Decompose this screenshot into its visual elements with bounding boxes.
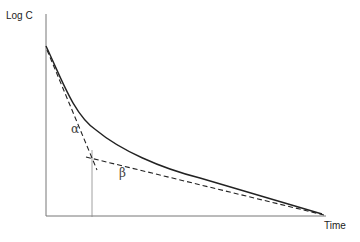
alpha-tangent-line xyxy=(47,50,97,170)
pharmacokinetic-diagram: Log C Time α β xyxy=(0,0,360,242)
concentration-curve xyxy=(46,46,322,214)
alpha-label: α xyxy=(71,122,79,136)
y-axis-label: Log C xyxy=(6,10,33,21)
beta-label: β xyxy=(119,166,126,180)
x-axis-label: Time xyxy=(324,220,346,231)
